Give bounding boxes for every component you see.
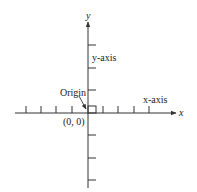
y-axis-name-label: y-axis	[92, 52, 117, 63]
y-axis-end-label: y	[85, 10, 91, 21]
coordinate-plane: y x y-axis x-axis Origin (0, 0)	[0, 0, 197, 192]
x-axis-end-label: x	[178, 107, 184, 118]
origin-label: Origin	[60, 87, 86, 98]
origin-marker	[88, 106, 96, 113]
origin-coords-label: (0, 0)	[63, 116, 85, 128]
x-axis-name-label: x-axis	[143, 94, 168, 105]
